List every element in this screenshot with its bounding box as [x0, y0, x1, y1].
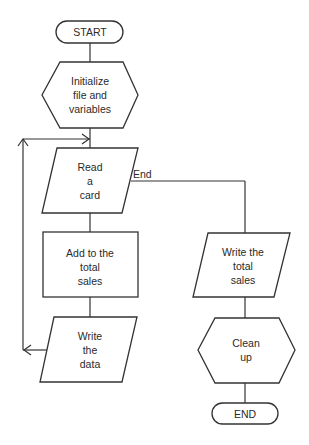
svg-text:END: END — [234, 408, 257, 420]
svg-text:data: data — [80, 358, 101, 370]
svg-text:total: total — [233, 260, 253, 272]
node-initialize: Initialize file and variables — [42, 62, 138, 128]
edge-label-end: End — [133, 168, 152, 180]
svg-text:up: up — [240, 351, 252, 363]
svg-text:sales: sales — [78, 275, 103, 287]
node-write-total: Write the total sales — [193, 233, 290, 297]
svg-text:card: card — [80, 189, 101, 201]
svg-text:Initialize: Initialize — [71, 75, 109, 87]
node-clean-up: Clean up — [198, 318, 295, 383]
svg-text:the: the — [83, 344, 98, 356]
svg-text:START: START — [73, 26, 107, 38]
svg-text:variables: variables — [69, 103, 111, 115]
svg-text:total: total — [80, 261, 100, 273]
svg-text:Write the: Write the — [222, 246, 264, 258]
node-read-card: Read a card — [42, 148, 138, 213]
svg-text:Read: Read — [77, 161, 102, 173]
svg-text:Add to the: Add to the — [66, 247, 114, 259]
svg-text:Clean: Clean — [232, 337, 260, 349]
flowchart: End START Initialize file and variables … — [0, 0, 309, 445]
end-branch-connector: End — [131, 168, 245, 233]
svg-text:sales: sales — [231, 274, 256, 286]
svg-text:Write: Write — [78, 330, 102, 342]
svg-text:a: a — [87, 175, 93, 187]
node-add-total: Add to the total sales — [43, 232, 138, 297]
svg-text:file and: file and — [73, 89, 107, 101]
node-start: START — [56, 21, 123, 43]
node-end: END — [212, 403, 278, 424]
node-write-data: Write the data — [40, 317, 137, 382]
